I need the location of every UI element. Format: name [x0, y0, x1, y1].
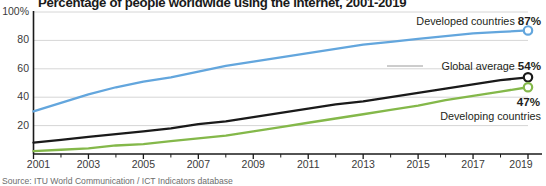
- x-axis-tick-label: 2013: [351, 158, 374, 170]
- x-axis-tick-label: 2017: [461, 158, 484, 170]
- y-axis-tick-label: 60: [0, 62, 29, 74]
- x-axis-tick-label: 2011: [297, 158, 320, 170]
- series-lines: [34, 30, 529, 151]
- y-axis-tick-label: 80: [0, 33, 29, 45]
- source-note: Source: ITU World Communication / ICT In…: [2, 176, 233, 186]
- annotation-developed-countries: Developed countries 87%: [416, 14, 541, 27]
- annotation-developing-label-wrap: Developing countries: [440, 110, 541, 122]
- annotation-global-label: Global average: [442, 60, 515, 72]
- chart-container: Percentage of people worldwide using the…: [0, 0, 546, 186]
- axis-lines: [34, 11, 543, 154]
- y-axis-tick-label: 100%: [0, 5, 29, 17]
- x-axis-tick-label: 2007: [187, 158, 210, 170]
- x-axis-tick-label: 2009: [242, 158, 265, 170]
- annotation-developed-value: 87%: [518, 14, 541, 27]
- annotation-developing-value: 47%: [517, 95, 540, 108]
- annotation-developing-value-wrap: 47%: [517, 95, 540, 108]
- x-axis-tick-label: 2005: [132, 158, 155, 170]
- annotation-developed-label: Developed countries: [416, 15, 514, 27]
- x-axis-tick-label: 2015: [406, 158, 429, 170]
- x-axis-tick-label: 2019: [509, 158, 532, 170]
- annotation-global-average: Global average 54%: [442, 59, 541, 72]
- x-axis-tick-label: 2001: [27, 158, 50, 170]
- annotation-global-value: 54%: [518, 59, 541, 72]
- annotation-developing-label: Developing countries: [440, 110, 541, 122]
- x-axis-tick-label: 2003: [77, 158, 100, 170]
- y-axis-tick-label: 40: [0, 90, 29, 102]
- y-axis-tick-label: 20: [0, 119, 29, 131]
